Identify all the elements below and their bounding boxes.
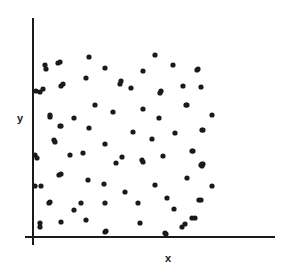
data-point <box>198 197 203 202</box>
data-point <box>209 183 214 188</box>
data-point <box>57 59 62 64</box>
data-point <box>58 171 63 176</box>
data-point <box>32 183 37 188</box>
data-point <box>171 206 176 211</box>
data-point <box>71 207 76 212</box>
data-point <box>34 155 39 160</box>
data-point <box>192 215 197 220</box>
data-point <box>164 195 169 200</box>
data-point <box>43 66 48 71</box>
data-point <box>86 125 91 130</box>
data-point <box>113 160 118 165</box>
plot-canvas <box>0 0 286 277</box>
data-points-group <box>32 52 214 236</box>
data-point <box>40 86 45 91</box>
data-point <box>195 66 200 71</box>
data-point <box>47 199 52 204</box>
axes-group <box>25 18 275 245</box>
x-axis-label: x <box>165 253 172 264</box>
data-point <box>102 65 107 70</box>
data-point <box>51 137 56 142</box>
data-point <box>140 106 145 111</box>
scatter-plot-figure: y x <box>0 0 286 277</box>
data-point <box>184 175 189 180</box>
data-point <box>83 217 88 222</box>
data-point <box>122 189 127 194</box>
data-point <box>152 52 157 57</box>
data-point <box>128 85 133 90</box>
data-point <box>172 130 177 135</box>
data-point <box>130 129 135 134</box>
data-point <box>137 220 142 225</box>
data-point <box>78 200 83 205</box>
data-point <box>102 229 107 234</box>
data-point <box>140 159 145 164</box>
data-point <box>149 136 154 141</box>
data-point <box>83 75 88 80</box>
data-point <box>58 219 63 224</box>
data-point <box>71 115 76 120</box>
data-point <box>198 84 203 89</box>
data-point <box>160 153 165 158</box>
data-point <box>184 102 189 107</box>
data-point <box>157 90 162 95</box>
data-point <box>37 224 42 229</box>
data-point <box>209 112 214 117</box>
data-point <box>47 112 52 117</box>
data-point <box>80 150 85 155</box>
data-point <box>189 148 194 153</box>
data-point <box>86 54 91 59</box>
data-point <box>156 115 161 120</box>
data-point <box>110 109 115 114</box>
data-point <box>67 152 72 157</box>
data-point <box>33 88 38 93</box>
data-point <box>152 182 157 187</box>
data-point <box>101 181 106 186</box>
data-point <box>57 123 62 128</box>
data-point <box>85 177 90 182</box>
data-point <box>38 183 43 188</box>
data-point <box>140 68 145 73</box>
data-point <box>102 200 107 205</box>
data-point <box>182 221 187 226</box>
data-point <box>119 154 124 159</box>
data-point <box>170 62 175 67</box>
data-point <box>200 127 205 132</box>
data-point <box>180 83 185 88</box>
data-point <box>92 102 97 107</box>
data-point <box>118 78 123 83</box>
y-axis-label: y <box>17 113 24 124</box>
data-point <box>198 162 203 167</box>
data-point <box>135 200 140 205</box>
data-point <box>163 231 168 236</box>
data-point <box>102 141 107 146</box>
data-point <box>58 83 63 88</box>
